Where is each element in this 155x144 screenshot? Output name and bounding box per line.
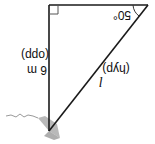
- hypotenuse-symbol: l: [99, 74, 103, 89]
- hypotenuse-tag-label: (hyp): [102, 62, 129, 76]
- opposite-length-label: 6 m: [27, 63, 47, 77]
- hypotenuse-side: [49, 5, 148, 131]
- angle-arc: [133, 5, 139, 16]
- right-angle-marker: [49, 5, 58, 14]
- triangle-diagram: 50° 6 m (opp) (hyp) l: [0, 0, 155, 144]
- angle-label: 50°: [113, 8, 131, 22]
- opposite-tag-label: (opp): [21, 48, 49, 62]
